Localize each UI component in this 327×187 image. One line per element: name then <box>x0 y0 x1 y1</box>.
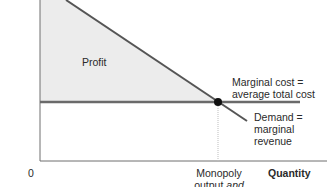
monopoly-label-output-text: output <box>194 179 226 187</box>
demand-label-line-3: revenue <box>254 135 303 147</box>
demand-label-line-1: Demand = <box>254 111 303 123</box>
profit-label: Profit <box>82 56 107 68</box>
equilibrium-point-marker <box>214 98 222 106</box>
origin-label: 0 <box>28 167 34 179</box>
mc-label-line-2: average total cost <box>232 88 315 100</box>
mc-label-line-1: Marginal cost = <box>232 76 315 88</box>
profit-label-text: Profit <box>82 56 107 68</box>
demand-label: Demand = marginal revenue <box>254 111 303 147</box>
monopoly-output-label: Monopoly output and <box>190 167 248 187</box>
x-axis-title: Quantity <box>268 167 311 179</box>
monopoly-label-line-1: Monopoly <box>190 167 248 179</box>
monopoly-label-and-text: and <box>226 179 244 187</box>
monopoly-label-line-2: output and <box>190 179 248 187</box>
marginal-cost-label: Marginal cost = average total cost <box>232 76 315 100</box>
profit-region <box>40 0 218 102</box>
monopoly-profit-diagram: Profit Marginal cost = average total cos… <box>0 0 327 187</box>
demand-label-line-2: marginal <box>254 123 303 135</box>
